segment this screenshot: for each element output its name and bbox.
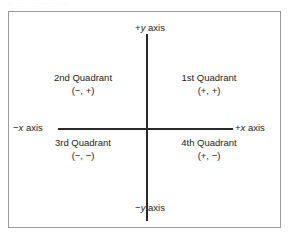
negative-y-axis-suffix: axis	[145, 202, 165, 213]
quadrant-4-signs: (+, −)	[157, 149, 261, 162]
coordinate-plane: +y axis −y axis −x axis +x axis 2nd Quad…	[9, 12, 280, 227]
positive-x-axis-label: +x axis	[235, 122, 265, 133]
negative-y-axis-label: −y axis	[122, 202, 178, 213]
positive-y-axis-suffix: axis	[145, 22, 165, 33]
quadrant-label-4: 4th Quadrant (+, −)	[157, 136, 261, 162]
quadrant-4-name: 4th Quadrant	[181, 137, 236, 148]
figure-frame: +y axis −y axis −x axis +x axis 2nd Quad…	[8, 11, 281, 228]
quadrant-label-1: 1st Quadrant (+, +)	[157, 71, 261, 97]
positive-x-axis-suffix: axis	[245, 122, 265, 133]
quadrant-label-2: 2nd Quadrant (−, +)	[31, 71, 135, 97]
quadrant-label-3: 3rd Quadrant (−, −)	[31, 136, 135, 162]
quadrant-3-name: 3rd Quadrant	[55, 137, 111, 148]
negative-x-axis-label: −x axis	[13, 122, 43, 133]
quadrant-1-name: 1st Quadrant	[182, 72, 237, 83]
quadrant-2-signs: (−, +)	[31, 84, 135, 97]
clipped-caption-text: ·· ··· ·· ····· ···· ···	[8, 0, 98, 7]
negative-x-axis-suffix: axis	[23, 122, 43, 133]
quadrant-2-name: 2nd Quadrant	[54, 72, 112, 83]
quadrant-1-signs: (+, +)	[157, 84, 261, 97]
positive-y-axis-label: +y axis	[122, 22, 178, 33]
quadrant-3-signs: (−, −)	[31, 149, 135, 162]
y-axis-line	[146, 34, 148, 221]
